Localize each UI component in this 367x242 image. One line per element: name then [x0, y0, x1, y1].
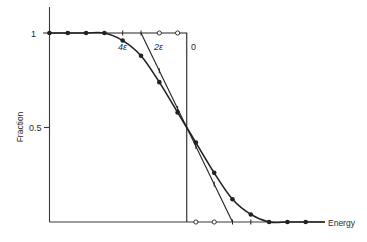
- marker-filled-dot: [303, 220, 308, 225]
- marker-filled-dot: [47, 31, 52, 36]
- curves: [48, 32, 325, 222]
- marker-filled-dot: [66, 31, 71, 36]
- y-axis-label: Fraction: [15, 111, 25, 142]
- ytick-label-0.5: 0.5: [29, 123, 42, 133]
- curve-label-0: 0: [191, 42, 196, 52]
- marker-open-circle: [212, 220, 216, 224]
- marker-filled-dot: [139, 53, 144, 58]
- marker-filled-dot: [212, 171, 217, 176]
- marker-filled-dot: [285, 220, 290, 225]
- marker-filled-dot: [267, 220, 272, 225]
- curve-0: [50, 33, 187, 222]
- marker-open-circle: [194, 220, 198, 224]
- markers: [47, 31, 308, 225]
- curve-label-4e: 4ε: [118, 42, 128, 52]
- ytick-label-1: 1: [31, 29, 36, 39]
- fermi-distribution-chart: 1 0.5 Fraction Energy 4ε 2ε 0: [0, 0, 367, 242]
- marker-filled-dot: [157, 80, 162, 85]
- marker-open-circle: [157, 31, 161, 35]
- marker-open-circle: [176, 31, 180, 35]
- marker-filled-dot: [84, 31, 89, 36]
- marker-filled-dot: [249, 212, 254, 217]
- marker-filled-dot: [102, 31, 107, 36]
- marker-filled-dot: [230, 197, 235, 202]
- curve-label-2e: 2ε: [153, 42, 164, 52]
- axes: [43, 7, 325, 222]
- x-axis-label: Energy: [328, 218, 356, 228]
